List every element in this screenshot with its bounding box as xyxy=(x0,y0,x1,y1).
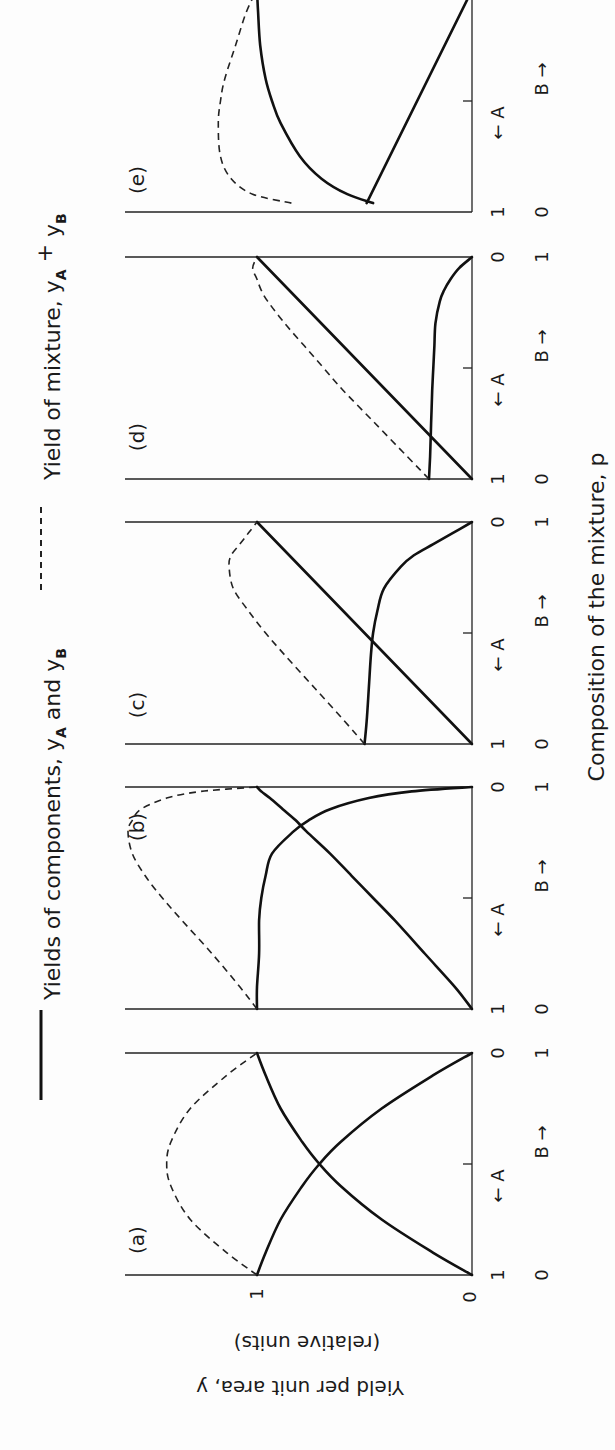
panel-c-b-direction-arrow-icon: B → xyxy=(531,594,552,627)
panel-a-component-b-curve xyxy=(257,1053,472,1275)
panel-b-b-tick-1: 1 xyxy=(531,781,552,792)
panel-e-mixture-yield-curve xyxy=(218,0,291,203)
panel-e-b-direction-arrow-icon: B → xyxy=(531,62,552,95)
panel-b-a-tick-1: 1 xyxy=(487,1003,508,1014)
panel-e-a-direction-arrow-icon: ← A xyxy=(487,106,508,140)
y-axis: 1 0 (relative units) Yield per unit area… xyxy=(196,1288,480,1400)
panel-c-component-b-curve xyxy=(365,522,473,744)
panel-c-b-tick-0: 0 xyxy=(531,738,552,749)
legend-dashed-label: Yield of mixture, yA + yB xyxy=(32,213,69,481)
panel-a-b-tick-0: 0 xyxy=(531,1269,552,1280)
panel-c-a-tick-1: 1 xyxy=(487,738,508,749)
panels: (a)1001← AB →(b)1001← AB →(c)1001← AB →(… xyxy=(125,0,552,1281)
panel-d-mixture-yield-curve xyxy=(253,257,429,479)
panel-a-a-tick-0: 0 xyxy=(487,1047,508,1058)
panel-e-component-a-curve xyxy=(257,0,373,203)
panel-e-component-b-curve xyxy=(367,0,472,203)
legend-solid-label: Yields of components, yA and yB xyxy=(40,648,69,1001)
panel-a-component-a-curve xyxy=(257,1053,472,1275)
panel-c-b-tick-1: 1 xyxy=(531,516,552,527)
panel-d-a-tick-1: 1 xyxy=(487,473,508,484)
panel-c-a-direction-arrow-icon: ← A xyxy=(487,638,508,672)
panel-d-component-a-curve xyxy=(257,257,472,479)
y-axis-title-line1: Yield per unit area, y xyxy=(196,1376,405,1400)
panel-d-label: (d) xyxy=(125,423,149,451)
yield-composition-figure: Yields of components, yA and yB Yield of… xyxy=(0,0,615,1450)
panel-c-component-a-curve xyxy=(257,522,472,744)
panel-b-label: (b) xyxy=(125,813,149,841)
panel-d-a-tick-0: 0 xyxy=(487,251,508,262)
panel-c-mixture-yield-curve xyxy=(229,522,365,744)
panel-b-b-direction-arrow-icon: B → xyxy=(531,859,552,892)
panel-d-a-direction-arrow-icon: ← A xyxy=(487,373,508,407)
panel-a-b-tick-1: 1 xyxy=(531,1047,552,1058)
legend: Yields of components, yA and yB Yield of… xyxy=(32,213,69,1100)
panel-e-b-tick-0: 0 xyxy=(531,206,552,217)
panel-d-b-tick-0: 0 xyxy=(531,473,552,484)
panel-a-a-tick-1: 1 xyxy=(487,1269,508,1280)
panel-b-a-direction-arrow-icon: ← A xyxy=(487,903,508,937)
panel-b-component-b-curve xyxy=(257,787,472,1009)
y-tick-1: 1 xyxy=(246,1288,267,1299)
panel-a-b-direction-arrow-icon: B → xyxy=(531,1125,552,1158)
panel-b-a-tick-0: 0 xyxy=(487,781,508,792)
panel-d-b-direction-arrow-icon: B → xyxy=(531,329,552,362)
panel-c-label: (c) xyxy=(125,692,149,719)
panel-c-a-tick-0: 0 xyxy=(487,516,508,527)
y-axis-title-line2: (relative units) xyxy=(234,1331,381,1355)
panel-e-a-tick-1: 1 xyxy=(487,206,508,217)
panel-a-mixture-yield-curve xyxy=(167,1053,257,1275)
panel-a-label: (a) xyxy=(125,1226,149,1254)
panel-a-a-direction-arrow-icon: ← A xyxy=(487,1169,508,1203)
panel-b-b-tick-0: 0 xyxy=(531,1003,552,1014)
y-tick-0: 0 xyxy=(459,1291,480,1302)
panel-b-component-a-curve xyxy=(257,787,472,1009)
panel-e-label: (e) xyxy=(125,166,149,194)
x-axis-title: Composition of the mixture, p xyxy=(584,453,609,782)
panel-d-b-tick-1: 1 xyxy=(531,251,552,262)
